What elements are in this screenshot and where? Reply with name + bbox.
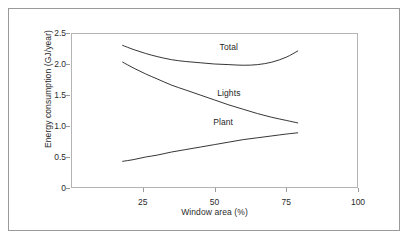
y-axis-title: Energy consumption (GJ/year) bbox=[43, 9, 53, 169]
y-tick-mark bbox=[66, 95, 70, 96]
curve-plant bbox=[123, 133, 298, 162]
y-tick-mark bbox=[66, 188, 70, 189]
x-axis-title: Window area (%) bbox=[71, 207, 358, 217]
x-tick-mark bbox=[286, 188, 287, 192]
x-tick-mark bbox=[358, 188, 359, 192]
x-tick-label: 50 bbox=[200, 197, 230, 207]
x-tick-mark bbox=[215, 188, 216, 192]
curve-label-lights: Lights bbox=[217, 88, 240, 98]
y-tick-mark bbox=[66, 33, 70, 34]
curve-label-total: Total bbox=[220, 42, 238, 52]
x-tick-label: 100 bbox=[343, 197, 373, 207]
curve-total bbox=[123, 45, 298, 65]
curve-label-plant: Plant bbox=[213, 117, 233, 127]
y-tick-mark bbox=[66, 126, 70, 127]
x-tick-label: 25 bbox=[128, 197, 158, 207]
chart-figure: 00.51.01.52.02.5 255075100 Energy consum… bbox=[0, 0, 409, 241]
x-axis-tick-labels: 255075100 bbox=[71, 191, 358, 205]
plot-curves bbox=[71, 33, 358, 188]
x-tick-label: 75 bbox=[271, 197, 301, 207]
y-tick-label: 0 bbox=[42, 183, 66, 193]
curve-lights bbox=[123, 62, 298, 123]
y-tick-mark bbox=[66, 64, 70, 65]
x-tick-mark bbox=[143, 188, 144, 192]
y-tick-mark bbox=[66, 157, 70, 158]
